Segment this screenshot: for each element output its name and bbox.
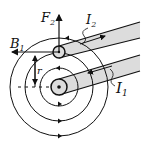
radius-label: r	[37, 65, 43, 76]
magnetic-field-diagram: F2 B1 I2 I1 r	[0, 0, 144, 147]
current1-label: I1	[115, 79, 128, 98]
wire-1	[59, 55, 140, 95]
force-label: F2	[40, 10, 55, 27]
current-out-dot	[57, 85, 61, 89]
field-label: B1	[9, 36, 25, 53]
current2-label: I2	[85, 12, 96, 29]
